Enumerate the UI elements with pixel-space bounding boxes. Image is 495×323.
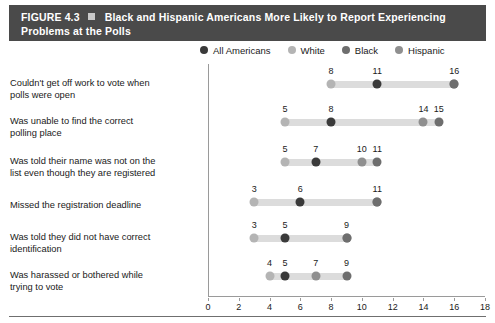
x-axis-tick-mark xyxy=(423,298,424,301)
data-point-value-label: 5 xyxy=(282,220,287,230)
legend-dot-icon xyxy=(288,46,296,54)
figure-container: FIGURE 4.3Black and Hispanic Americans M… xyxy=(0,0,495,323)
figure-bottom-rule xyxy=(9,316,486,317)
legend-label: Black xyxy=(355,45,378,56)
data-point-value-label: 9 xyxy=(344,220,349,230)
data-point-dot[interactable] xyxy=(373,158,382,167)
data-point-value-label: 15 xyxy=(434,104,444,114)
data-point-dot[interactable] xyxy=(280,234,289,243)
x-axis-tick-mark xyxy=(270,298,271,301)
data-point-dot[interactable] xyxy=(311,272,320,281)
x-axis-tick-mark xyxy=(208,298,209,301)
legend-label: All Americans xyxy=(213,45,271,56)
x-axis-tick-label: 0 xyxy=(205,302,210,312)
data-point-dot[interactable] xyxy=(342,234,351,243)
x-axis-tick-mark xyxy=(485,298,486,301)
legend-item[interactable]: Black xyxy=(342,45,378,56)
x-axis-tick-mark xyxy=(454,298,455,301)
data-point-value-label: 3 xyxy=(252,220,257,230)
data-point-dot[interactable] xyxy=(373,198,382,207)
x-axis-tick-label: 2 xyxy=(236,302,241,312)
figure-title-text: Black and Hispanic Americans More Likely… xyxy=(105,11,446,23)
data-point-value-label: 7 xyxy=(313,144,318,154)
data-point-dot[interactable] xyxy=(280,158,289,167)
figure-title-bar: FIGURE 4.3Black and Hispanic Americans M… xyxy=(9,5,486,41)
legend-dot-icon xyxy=(395,46,403,54)
legend-dot-icon xyxy=(200,46,208,54)
data-point-value-label: 16 xyxy=(449,66,459,76)
row-category-label: Was unable to find the correctpolling pl… xyxy=(10,116,200,139)
data-point-value-label: 5 xyxy=(282,144,287,154)
data-point-value-label: 8 xyxy=(329,66,334,76)
legend-item[interactable]: Hispanic xyxy=(395,45,444,56)
chart-legend: All AmericansWhiteBlackHispanic xyxy=(200,43,490,57)
data-point-dot[interactable] xyxy=(265,272,274,281)
data-point-dot[interactable] xyxy=(250,234,259,243)
row-category-label: Was harassed or bothered whiletrying to … xyxy=(10,270,200,293)
row-category-label-line2: identification xyxy=(10,244,62,254)
data-point-value-label: 11 xyxy=(373,66,382,76)
data-point-value-label: 3 xyxy=(252,184,257,194)
row-category-label-line2: list even though they are registered xyxy=(10,168,155,178)
x-axis-tick-label: 18 xyxy=(480,302,490,312)
row-range-track xyxy=(254,235,346,242)
data-point-value-label: 11 xyxy=(373,144,382,154)
figure-title-line-2: Problems at the Polls xyxy=(21,24,476,38)
data-point-value-label: 11 xyxy=(373,184,382,194)
data-point-dot[interactable] xyxy=(327,118,336,127)
x-axis-tick-mark xyxy=(239,298,240,301)
data-point-dot[interactable] xyxy=(296,198,305,207)
x-axis-tick-mark xyxy=(362,298,363,301)
x-axis-line xyxy=(208,296,485,297)
plot-area: Couldn't get off work to vote whenpolls … xyxy=(0,62,495,298)
row-category-label-line2: polls were open xyxy=(10,90,75,100)
square-bullet-icon xyxy=(88,13,95,20)
row-category-label-line2: polling place xyxy=(10,128,62,138)
x-axis-tick-label: 16 xyxy=(449,302,459,312)
x-axis-tick-label: 6 xyxy=(298,302,303,312)
x-axis-tick-mark xyxy=(331,298,332,301)
data-point-dot[interactable] xyxy=(357,158,366,167)
row-range-track xyxy=(285,119,439,126)
legend-label: White xyxy=(301,45,325,56)
data-point-value-label: 4 xyxy=(267,258,272,268)
data-point-dot[interactable] xyxy=(419,118,428,127)
data-point-dot[interactable] xyxy=(311,158,320,167)
data-point-dot[interactable] xyxy=(280,118,289,127)
data-point-dot[interactable] xyxy=(434,118,443,127)
x-axis-tick-label: 14 xyxy=(418,302,428,312)
row-category-label: Missed the registration deadline xyxy=(10,200,200,212)
legend-item[interactable]: All Americans xyxy=(200,45,271,56)
data-point-value-label: 8 xyxy=(329,104,334,114)
x-axis-tick-label: 4 xyxy=(267,302,272,312)
row-category-label: Couldn't get off work to vote whenpolls … xyxy=(10,78,200,101)
data-point-value-label: 7 xyxy=(313,258,318,268)
x-axis-tick-label: 8 xyxy=(329,302,334,312)
data-point-value-label: 6 xyxy=(298,184,303,194)
data-point-dot[interactable] xyxy=(342,272,351,281)
data-point-dot[interactable] xyxy=(280,272,289,281)
data-point-value-label: 5 xyxy=(282,258,287,268)
x-axis-tick-mark xyxy=(393,298,394,301)
row-category-label: Was told their name was not on thelist e… xyxy=(10,156,200,179)
data-point-dot[interactable] xyxy=(373,80,382,89)
y-axis-line xyxy=(208,64,209,297)
row-range-track xyxy=(331,81,454,88)
legend-dot-icon xyxy=(342,46,350,54)
x-axis-tick-mark xyxy=(300,298,301,301)
figure-number: FIGURE 4.3 xyxy=(21,11,80,23)
figure-title-line-1: FIGURE 4.3Black and Hispanic Americans M… xyxy=(21,10,476,24)
row-range-track xyxy=(254,199,377,206)
data-point-dot[interactable] xyxy=(450,80,459,89)
row-category-label: Was told they did not have correctidenti… xyxy=(10,232,200,255)
legend-item[interactable]: White xyxy=(288,45,325,56)
x-axis-tick-label: 12 xyxy=(388,302,398,312)
data-point-dot[interactable] xyxy=(327,80,336,89)
legend-label: Hispanic xyxy=(408,45,444,56)
data-point-dot[interactable] xyxy=(250,198,259,207)
data-point-value-label: 5 xyxy=(282,104,287,114)
data-point-value-label: 14 xyxy=(418,104,428,114)
data-point-value-label: 9 xyxy=(344,258,349,268)
row-category-label-line2: trying to vote xyxy=(10,282,63,292)
data-point-value-label: 10 xyxy=(357,144,367,154)
